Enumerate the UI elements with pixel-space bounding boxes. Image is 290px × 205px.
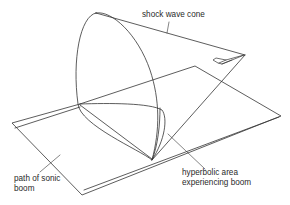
cone-lower-edge	[152, 55, 245, 160]
label-hyperbolic-area: hyperbolic area experiencing boom	[182, 168, 251, 188]
leader-hyperbolic-area	[168, 134, 205, 169]
label-hyperbolic-line2: experiencing boom	[182, 178, 251, 188]
label-path-line2: boom	[14, 184, 60, 194]
aircraft-icon	[213, 55, 244, 64]
label-path-of-sonic-boom: path of sonic boom	[14, 174, 60, 194]
ground-intersection-line	[80, 105, 152, 159]
label-hyperbolic-line1: hyperbolic area	[182, 168, 251, 178]
cone-base-ellipse	[76, 13, 158, 160]
leader-shock-wave-cone	[167, 22, 169, 33]
label-shock-wave-cone: shock wave cone	[142, 10, 205, 20]
hyperbolic-area-curve	[80, 104, 165, 160]
label-path-line1: path of sonic	[14, 174, 60, 184]
